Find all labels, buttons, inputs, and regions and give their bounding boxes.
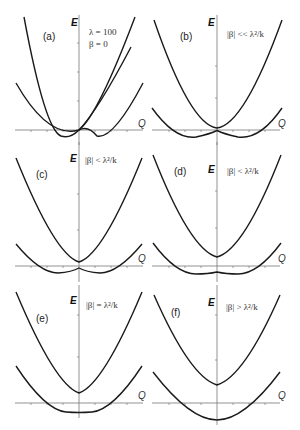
- e-axis-label: E: [70, 153, 77, 164]
- panel-d: (d) E Q |β| < λ²/k: [152, 142, 286, 282]
- e-axis-label: E: [208, 17, 215, 28]
- q-axis-label: Q: [278, 253, 286, 264]
- q-axis-label: Q: [138, 390, 146, 401]
- panel-e: (e) E Q |β| = λ²/k: [15, 285, 146, 418]
- q-axis-label: Q: [138, 118, 146, 129]
- panel-label: (d): [174, 166, 186, 177]
- condition-beta: |β| << λ²/k: [227, 29, 264, 39]
- panel-label: (e): [36, 313, 48, 324]
- panel-label: (f): [171, 307, 180, 318]
- condition-beta: β = 0: [89, 39, 108, 49]
- panel-label: (c): [36, 169, 48, 180]
- panel-label: (b): [180, 31, 192, 42]
- condition-lambda: λ = 100: [89, 27, 117, 37]
- condition-beta: |β| < λ²/k: [227, 166, 259, 176]
- panel-f: (f) E Q |β| > λ²/k: [152, 285, 286, 425]
- e-axis-label: E: [208, 164, 215, 175]
- condition-beta: |β| < λ²/k: [85, 155, 117, 165]
- q-axis-label: Q: [138, 253, 146, 264]
- q-axis-label: Q: [278, 118, 286, 129]
- condition-beta: |β| = λ²/k: [86, 300, 118, 310]
- panel-c: (c) E Q |β| < λ²/k: [15, 142, 146, 282]
- e-axis-label: E: [71, 17, 78, 28]
- q-axis-label: Q: [278, 390, 286, 401]
- condition-beta: |β| > λ²/k: [226, 302, 258, 312]
- panel-a: (a) E Q λ = 100 β = 0: [15, 15, 146, 145]
- e-axis-label: E: [70, 295, 77, 306]
- curve-lower-adiabatic: [153, 372, 280, 420]
- e-axis-label: E: [208, 297, 215, 308]
- energy-surfaces-figure: (a) E Q λ = 100 β = 0 (b) E Q |β| << λ²/…: [0, 0, 300, 430]
- curve-right-well: [16, 83, 143, 136]
- panel-label: (a): [43, 31, 55, 42]
- panel-b: (b) E Q |β| << λ²/k: [152, 15, 286, 145]
